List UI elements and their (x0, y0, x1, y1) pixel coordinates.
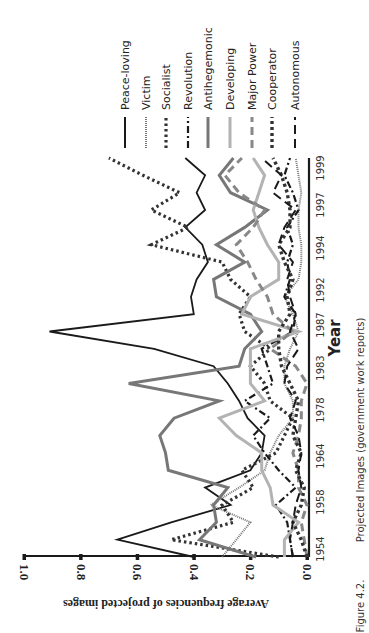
x-tick-label: 1954 (315, 536, 326, 561)
legend-label: Cooperator (266, 48, 279, 110)
series-lines (50, 158, 308, 557)
x-tick-label: 1994 (315, 235, 326, 260)
y-tick-label: 0.2 (243, 564, 258, 580)
legend-label: Developing (224, 48, 237, 110)
x-tick-label: 1964 (315, 443, 326, 468)
x-tick-label: 1992 (315, 277, 326, 302)
legend-label: Autonomous (289, 40, 302, 110)
x-tick-label: 1958 (315, 489, 326, 514)
series-line-peace-loving (50, 158, 265, 557)
y-tick-mark (136, 554, 140, 560)
y-tick-label: 1.0 (17, 564, 32, 580)
series-line-cooperator (273, 158, 307, 557)
x-tick-label: 1997 (315, 192, 326, 217)
x-tick-label: 1987 (315, 312, 326, 337)
y-tick-label: 0.4 (187, 564, 202, 581)
series-line-antihegemonic (129, 158, 268, 557)
x-tick-label: 1983 (315, 355, 326, 380)
x-axis-title: Year (326, 319, 344, 358)
y-axis-ticks: 0.00.20.40.60.81.0 (17, 554, 315, 581)
figure-caption-text: Projected Images (government work report… (355, 318, 366, 543)
y-tick-label: 0.6 (130, 564, 145, 581)
y-tick-label: 0.0 (300, 564, 315, 580)
legend: Peace-lovingVictimSocialistRevolutionAnt… (119, 27, 302, 148)
y-tick-mark (23, 554, 27, 560)
y-tick-label: 0.8 (74, 564, 89, 581)
legend-label: Socialist (160, 64, 173, 110)
x-axis-tick-labels: 1954195819641978198319871992199419971999 (315, 155, 326, 561)
series-line-autonomous (262, 158, 302, 557)
y-tick-mark (79, 554, 83, 560)
legend-label: Antihegemonic (202, 27, 215, 110)
y-axis-title: Average frequencies of projected images (63, 597, 269, 611)
legend-label: Victim (140, 76, 153, 110)
x-tick-label: 1978 (315, 397, 326, 422)
legend-label: Revolution (182, 52, 195, 110)
legend-label: Major Power (246, 42, 259, 110)
legend-label: Peace-loving (119, 40, 132, 110)
figure-caption-number: Figure 4.2. (355, 580, 366, 633)
rotated-line-chart: 0.00.20.40.60.81.0 195419581964197819831… (0, 0, 369, 633)
x-tick-label: 1999 (315, 155, 326, 180)
